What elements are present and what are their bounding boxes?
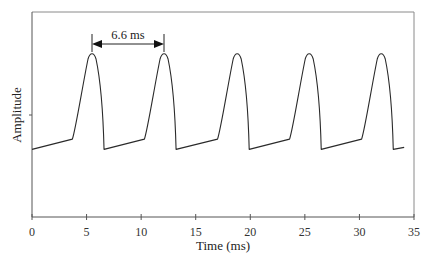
annotation-label: 6.6 ms bbox=[111, 28, 144, 42]
chart: 05101520253035 6.6 ms Time (ms) Amplitud… bbox=[0, 0, 424, 264]
period-annotation: 6.6 ms bbox=[92, 28, 164, 52]
x-tick-label: 5 bbox=[84, 225, 90, 239]
x-tick-label: 15 bbox=[190, 225, 202, 239]
x-tick-label: 30 bbox=[353, 225, 365, 239]
waveform-line bbox=[32, 54, 404, 150]
x-ticks: 05101520253035 bbox=[29, 214, 420, 239]
x-tick-label: 0 bbox=[29, 225, 35, 239]
x-tick-label: 35 bbox=[408, 225, 420, 239]
arrow-left-icon bbox=[92, 40, 102, 48]
arrow-right-icon bbox=[154, 40, 164, 48]
x-tick-label: 10 bbox=[135, 225, 147, 239]
y-axis-label: Amplitude bbox=[9, 87, 24, 143]
x-tick-label: 20 bbox=[244, 225, 256, 239]
x-tick-label: 25 bbox=[299, 225, 311, 239]
x-axis-label: Time (ms) bbox=[196, 238, 250, 253]
